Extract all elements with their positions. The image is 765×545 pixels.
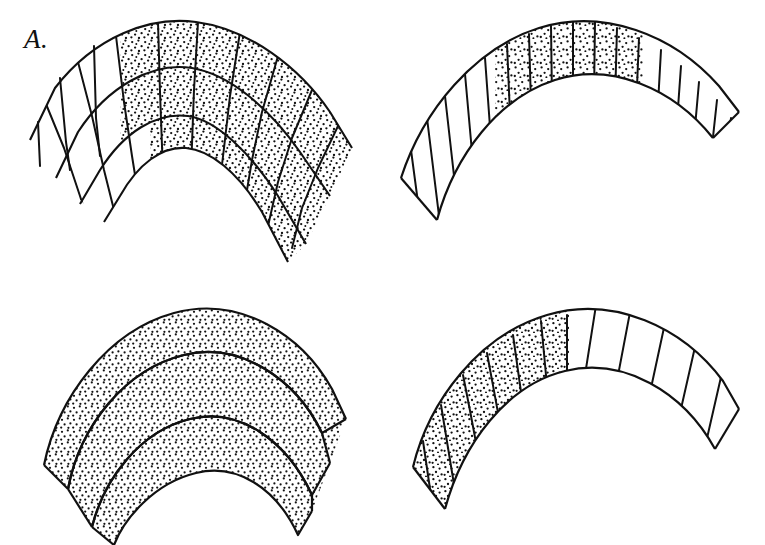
panel-a-label: A.	[24, 24, 48, 55]
panel-c: C.	[0, 273, 382, 545]
panel-c-drawing	[0, 273, 382, 545]
panel-a-drawing	[0, 0, 382, 272]
panel-d-drawing	[383, 273, 765, 545]
panel-b: B.	[383, 0, 765, 272]
panel-b-drawing	[383, 0, 765, 272]
panel-d: D.	[383, 273, 765, 545]
figure-root: A.	[0, 0, 765, 545]
panel-a: A.	[0, 0, 382, 272]
